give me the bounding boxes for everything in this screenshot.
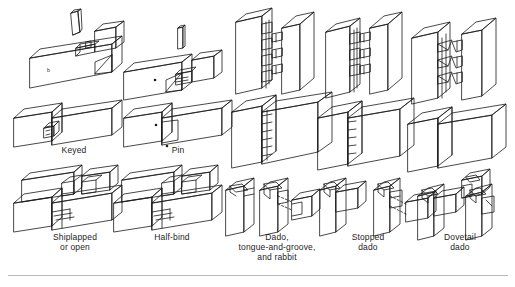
keyed-exploded: b	[30, 9, 124, 88]
dado-group	[226, 178, 320, 236]
caption-stopped-dado: Stopped dado	[330, 232, 406, 252]
bottom-rule	[8, 275, 508, 276]
caption-shiplapped: Shiplapped or open	[30, 232, 120, 252]
finger-joint-assembled	[232, 92, 332, 168]
shiplapped-exploded	[22, 165, 118, 202]
caption-dovetail-dado: Dovetail dado	[420, 232, 500, 252]
shiplapped-assembled	[14, 185, 122, 232]
finger-joint-exploded	[236, 8, 314, 94]
caption-half-bind: Half-bind	[132, 232, 212, 242]
box-joint-exploded	[326, 12, 402, 98]
dovetail-dado-group	[418, 169, 494, 240]
caption-keyed: Keyed	[38, 145, 110, 155]
joint-figure: b	[0, 0, 515, 287]
pin-exploded	[124, 25, 222, 100]
dovetail-assembled	[408, 104, 506, 172]
svg-text:b: b	[47, 67, 50, 73]
dovetail-exploded	[412, 18, 496, 104]
half-bind-assembled	[114, 185, 222, 232]
pin-assembled	[124, 100, 232, 147]
stopped-dado-group	[320, 178, 436, 236]
caption-pin: Pin	[152, 145, 204, 155]
half-bind-exploded	[122, 165, 218, 202]
caption-dado: Dado, tongue-and-groove, and rabbit	[222, 232, 332, 262]
keyed-assembled	[14, 100, 122, 147]
